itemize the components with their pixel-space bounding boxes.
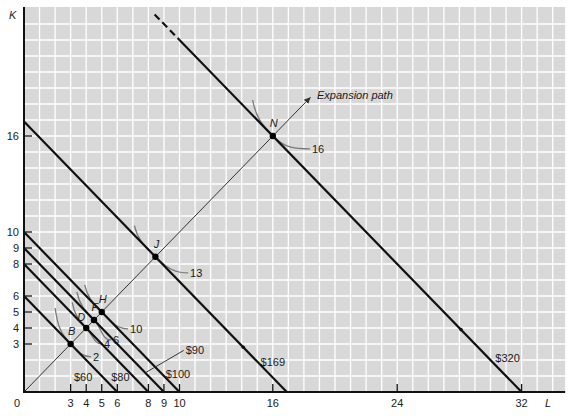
- chart-canvas: 345689101624323456891016 Expansion path$…: [0, 0, 572, 416]
- tangency-point-label: N: [270, 117, 278, 129]
- isoquant-label: 10: [130, 323, 142, 335]
- x-tick-label: 10: [173, 397, 185, 409]
- y-tick-label: 5: [13, 306, 19, 318]
- tangency-point: [270, 133, 276, 139]
- y-axis-label: K: [9, 9, 17, 21]
- isocost-expansion-path-chart: 345689101624323456891016 Expansion path$…: [0, 0, 572, 416]
- x-tick-label: 4: [83, 397, 89, 409]
- isoquant-label: 6: [113, 334, 119, 346]
- isocost-label: $100: [166, 368, 190, 380]
- y-tick-label: 3: [13, 338, 19, 350]
- isocost-label: $169: [261, 356, 285, 368]
- isoquant-label: 4: [104, 338, 110, 350]
- x-tick-label: 5: [99, 397, 105, 409]
- tangency-point: [91, 317, 97, 323]
- x-tick-label: 3: [68, 397, 74, 409]
- y-tick-label: 4: [13, 322, 19, 334]
- x-tick-label: 6: [114, 397, 120, 409]
- isocost-label: $60: [74, 371, 92, 383]
- y-tick-label: 9: [13, 242, 19, 254]
- isoquant-label: 16: [312, 143, 324, 155]
- isocost-line-marker: [459, 328, 463, 332]
- expansion-path-label: Expansion path: [317, 89, 393, 101]
- tangency-point-label: D: [77, 311, 85, 323]
- x-tick-label: 9: [161, 397, 167, 409]
- tangency-point: [67, 341, 73, 347]
- tangency-point: [99, 309, 105, 315]
- x-tick-label: 32: [515, 397, 527, 409]
- y-tick-label: 6: [13, 290, 19, 302]
- tangency-point-label: J: [153, 238, 160, 250]
- isocost-label: $320: [495, 352, 519, 364]
- y-tick-label: 16: [7, 130, 19, 142]
- x-tick-label: 8: [145, 397, 151, 409]
- tangency-point-label: B: [68, 325, 75, 337]
- x-tick-label: 24: [391, 397, 403, 409]
- tangency-point-label: H: [99, 293, 107, 305]
- isocost-line-marker: [241, 345, 245, 349]
- isoquant-label: 13: [190, 267, 202, 279]
- origin-label: 0: [14, 397, 20, 409]
- x-tick-label: 16: [267, 397, 279, 409]
- y-tick-label: 10: [7, 226, 19, 238]
- tangency-point: [152, 254, 158, 260]
- isocost-label: $90: [186, 344, 204, 356]
- tangency-point: [83, 325, 89, 331]
- isoquant-label: 2: [93, 351, 99, 363]
- y-tick-label: 8: [13, 258, 19, 270]
- isocost-label: $80: [111, 371, 129, 383]
- x-axis-label: L: [545, 397, 551, 409]
